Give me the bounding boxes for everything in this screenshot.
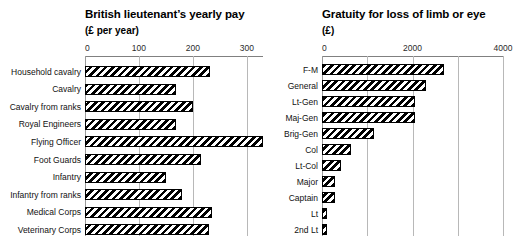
x-tick-label-200: 200 xyxy=(186,43,200,53)
bar[interactable] xyxy=(85,119,176,130)
plot-area-gratuity: 020004000F-MGeneralLt-GenMaj-GenBrig-Gen… xyxy=(322,56,503,236)
bar-row: Cavalry from ranks xyxy=(85,101,263,112)
bar[interactable] xyxy=(322,144,351,155)
chart-subtitle-gratuity: (£) xyxy=(322,25,334,36)
category-label: Maj-Gen xyxy=(285,113,318,123)
chart-subtitle-pay: (£ per year) xyxy=(85,25,139,36)
category-label: Major xyxy=(297,177,318,187)
category-label: 2nd Lt xyxy=(294,225,318,235)
category-label: Lt-Gen xyxy=(292,97,318,107)
bar-row: 2nd Lt xyxy=(322,224,503,235)
category-label: Lt-Col xyxy=(295,161,318,171)
bar[interactable] xyxy=(85,66,210,77)
bar-row: Royal Engineers xyxy=(85,119,263,130)
category-label: Medical Corps xyxy=(27,207,81,217)
bar-row: Lt-Col xyxy=(322,160,503,171)
bar[interactable] xyxy=(322,80,426,91)
bar-row: Major xyxy=(322,176,503,187)
category-label: Cavalry from ranks xyxy=(10,102,81,112)
bar-row: Brig-Gen xyxy=(322,128,503,139)
bar[interactable] xyxy=(322,128,374,139)
bar-row: Cavalry xyxy=(85,84,263,95)
category-label: F-M xyxy=(303,65,318,75)
bar[interactable] xyxy=(85,224,209,235)
category-label: General xyxy=(288,81,318,91)
category-label: Household cavalry xyxy=(11,67,81,77)
category-label: Veterinary Corps xyxy=(18,225,81,235)
gridline-4000 xyxy=(503,56,504,236)
category-label: Infantry from ranks xyxy=(10,190,81,200)
chart-title-gratuity: Gratuity for loss of limb or eye xyxy=(322,8,486,20)
bar-row: Lt-Gen xyxy=(322,96,503,107)
bar-row: Foot Guards xyxy=(85,154,263,165)
plot-area-pay: 0100200300Household cavalryCavalryCavalr… xyxy=(85,56,263,236)
bar[interactable] xyxy=(85,207,212,218)
bar[interactable] xyxy=(322,160,341,171)
bar-row: Col xyxy=(322,144,503,155)
chart-panel-gratuity: Gratuity for loss of limb or eye (£) 020… xyxy=(263,0,526,246)
category-label: Lt xyxy=(311,209,318,219)
bar[interactable] xyxy=(322,64,444,75)
bar-row: Medical Corps xyxy=(85,207,263,218)
bar[interactable] xyxy=(322,224,327,235)
bar[interactable] xyxy=(322,96,415,107)
category-label: Captain xyxy=(289,193,318,203)
bar[interactable] xyxy=(85,189,182,200)
category-label: Flying Officer xyxy=(31,137,81,147)
bar[interactable] xyxy=(85,84,176,95)
figure-two-bar-charts: British lieutenant’s yearly pay (£ per y… xyxy=(0,0,526,246)
x-tick-label-100: 100 xyxy=(132,43,146,53)
category-label: Col xyxy=(305,145,318,155)
bar-row: Infantry from ranks xyxy=(85,189,263,200)
bar[interactable] xyxy=(322,176,335,187)
x-tick-label-0: 0 xyxy=(85,43,90,53)
bar-row: Maj-Gen xyxy=(322,112,503,123)
category-label: Foot Guards xyxy=(34,155,81,165)
category-label: Infantry xyxy=(53,172,81,182)
category-label: Royal Engineers xyxy=(19,119,81,129)
x-tick-label-0: 0 xyxy=(322,43,327,53)
category-label: Brig-Gen xyxy=(284,129,318,139)
bar[interactable] xyxy=(85,154,201,165)
x-tick-label-2000: 2000 xyxy=(403,43,422,53)
x-tick-label-300: 300 xyxy=(240,43,254,53)
bar[interactable] xyxy=(322,208,327,219)
bar[interactable] xyxy=(85,136,263,147)
x-axis-line-pay xyxy=(85,56,263,57)
bar-row: Flying Officer xyxy=(85,136,263,147)
bar[interactable] xyxy=(85,172,166,183)
chart-panel-pay: British lieutenant’s yearly pay (£ per y… xyxy=(0,0,263,246)
x-tick-label-4000: 4000 xyxy=(494,43,513,53)
bar-row: Captain xyxy=(322,192,503,203)
bar-row: General xyxy=(322,80,503,91)
bar-row: Infantry xyxy=(85,172,263,183)
chart-title-pay: British lieutenant’s yearly pay xyxy=(85,8,244,20)
bar[interactable] xyxy=(322,112,415,123)
bar-row: F-M xyxy=(322,64,503,75)
bar[interactable] xyxy=(85,101,193,112)
bar-row: Veterinary Corps xyxy=(85,224,263,235)
bar-row: Lt xyxy=(322,208,503,219)
bar-row: Household cavalry xyxy=(85,66,263,77)
bar[interactable] xyxy=(322,192,335,203)
category-label: Cavalry xyxy=(52,84,81,94)
